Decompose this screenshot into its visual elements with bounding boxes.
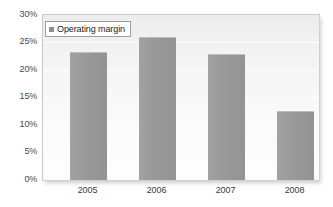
bar-2006[interactable]: [139, 37, 176, 180]
operating-margin-bar-chart: 30% 25% 20% 15% 10% 5% 0% 2005 2006 2007…: [0, 0, 333, 207]
x-axis-tick-label: 2008: [275, 185, 314, 196]
legend[interactable]: Operating margin: [45, 21, 131, 37]
x-axis-tick-label: 2006: [137, 185, 176, 196]
y-axis-tick-label: 20%: [20, 65, 37, 74]
y-axis-tick-label: 0%: [24, 175, 37, 184]
y-axis-tick-label: 10%: [20, 120, 37, 129]
plot-area: [42, 14, 320, 181]
y-axis-tick-label: 15%: [20, 92, 37, 101]
bar-2007[interactable]: [208, 54, 245, 180]
bar-2008[interactable]: [277, 111, 314, 180]
y-axis-tick-label: 25%: [20, 37, 37, 46]
gridline-25: [43, 42, 319, 43]
x-axis: 2005 2006 2007 2008: [42, 185, 320, 205]
y-axis: 30% 25% 20% 15% 10% 5% 0%: [0, 0, 40, 207]
y-axis-tick-label: 5%: [24, 147, 37, 156]
x-axis-tick-label: 2007: [206, 185, 245, 196]
y-axis-tick-label: 30%: [20, 10, 37, 19]
bar-2005[interactable]: [70, 52, 107, 180]
x-axis-tick-label: 2005: [68, 185, 107, 196]
legend-entry-label: Operating margin: [57, 24, 125, 34]
legend-swatch-icon: [49, 27, 54, 32]
